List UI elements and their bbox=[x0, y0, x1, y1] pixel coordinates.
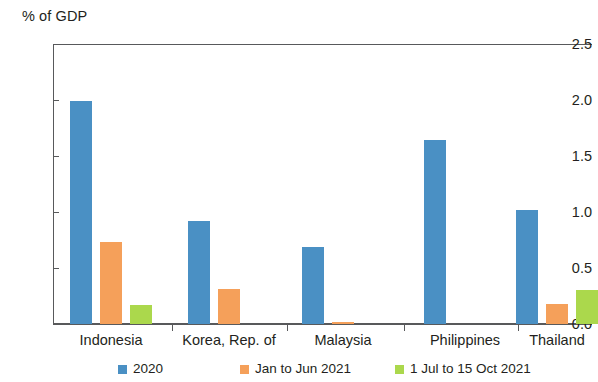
x-axis-category-label: Thailand bbox=[529, 332, 585, 348]
legend-item[interactable]: 2020 bbox=[118, 362, 163, 376]
bar bbox=[332, 322, 354, 324]
x-axis-category-label: Malaysia bbox=[314, 332, 371, 348]
legend-label: 2020 bbox=[133, 362, 163, 376]
bar bbox=[218, 289, 240, 324]
chart-legend: 2020Jan to Jun 20211 Jul to 15 Oct 2021 bbox=[0, 362, 592, 382]
y-axis-title: % of GDP bbox=[22, 8, 87, 24]
bar bbox=[302, 247, 324, 324]
legend-swatch-icon bbox=[118, 365, 127, 374]
x-axis-category-label: Indonesia bbox=[80, 332, 143, 348]
x-axis-tick bbox=[518, 324, 519, 331]
x-axis-category-label: Korea, Rep. of bbox=[182, 332, 276, 348]
x-axis-tick bbox=[172, 324, 173, 331]
bars-layer bbox=[0, 44, 592, 324]
bar bbox=[576, 290, 598, 324]
bar bbox=[70, 101, 92, 324]
bar bbox=[546, 304, 568, 324]
bar bbox=[100, 242, 122, 324]
bar bbox=[130, 305, 152, 324]
legend-item[interactable]: Jan to Jun 2021 bbox=[240, 362, 351, 376]
bar bbox=[516, 210, 538, 324]
x-axis-tick bbox=[404, 324, 405, 331]
bar bbox=[424, 140, 446, 324]
x-axis-tick bbox=[287, 324, 288, 331]
legend-swatch-icon bbox=[240, 365, 249, 374]
x-axis-category-label: Philippines bbox=[430, 332, 500, 348]
legend-label: Jan to Jun 2021 bbox=[255, 362, 351, 376]
bar bbox=[188, 221, 210, 324]
legend-swatch-icon bbox=[395, 365, 404, 374]
legend-label: 1 Jul to 15 Oct 2021 bbox=[410, 362, 531, 376]
legend-item[interactable]: 1 Jul to 15 Oct 2021 bbox=[395, 362, 531, 376]
